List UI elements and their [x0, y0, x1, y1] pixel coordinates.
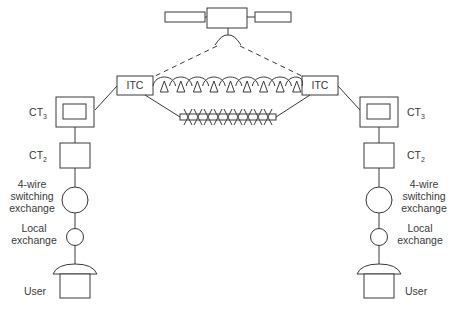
four-wire-left-label-2: switching — [10, 190, 53, 202]
ct3-left-label: CT3 — [29, 106, 47, 120]
local-left-label-1: Local — [21, 222, 46, 234]
user-right-house — [364, 274, 394, 298]
satellite-link-left — [153, 46, 217, 77]
user-right-roof — [357, 264, 401, 274]
link-itc-ct3-right — [338, 86, 360, 110]
ct2-right-box — [364, 143, 394, 168]
local-right-label-2: exchange — [397, 234, 443, 246]
relay-tower-icon — [193, 81, 201, 92]
link-itc-ct3-left — [95, 86, 117, 110]
relay-hop — [285, 77, 302, 86]
itc-left-label: ITC — [127, 79, 144, 91]
satellite-link-right — [240, 46, 304, 77]
relay-tower-icon — [227, 81, 235, 92]
user-left-roof — [53, 264, 97, 274]
four-wire-exchange-right — [366, 187, 392, 213]
ct2-right-label: CT2 — [407, 149, 425, 163]
ct3-left-inner — [63, 104, 86, 119]
itc-right: ITC — [302, 76, 338, 95]
four-wire-right-label-1: 4-wire — [410, 178, 439, 190]
relay-tower-icon — [276, 81, 284, 92]
four-wire-right-label-3: exchange — [401, 202, 447, 214]
radio-relay-chain — [153, 77, 303, 92]
relay-tower-icon — [160, 81, 168, 92]
right-hierarchy: CT3 CT2 4-wire switching exchange Local … — [357, 97, 447, 298]
left-hierarchy: CT3 CT2 4-wire switching exchange Local … — [9, 97, 97, 298]
satellite — [165, 8, 291, 45]
satellite-left-panel — [165, 12, 205, 22]
four-wire-left-label-3: exchange — [9, 202, 55, 214]
cable-right-feed — [276, 95, 310, 117]
four-wire-right-label-2: switching — [402, 190, 445, 202]
itc-left: ITC — [117, 76, 153, 95]
local-right-label-1: Local — [407, 222, 432, 234]
cable-left-feed — [145, 95, 180, 117]
ct2-left-box — [60, 143, 90, 168]
user-left-house — [60, 274, 90, 298]
four-wire-exchange-left — [62, 187, 88, 213]
local-exchange-right — [371, 229, 388, 246]
user-right-label: User — [405, 285, 428, 297]
relay-tower-icon — [210, 81, 218, 92]
four-wire-left-label-1: 4-wire — [18, 178, 47, 190]
relay-tower-icon — [243, 81, 251, 92]
relay-tower-icon — [293, 81, 301, 92]
satellite-body — [207, 8, 247, 28]
satellite-antenna-dish — [215, 35, 241, 45]
relay-tower-icon — [177, 81, 185, 92]
user-left-label: User — [24, 285, 47, 297]
local-left-label-2: exchange — [11, 234, 57, 246]
itc-right-label: ITC — [312, 79, 329, 91]
submarine-cable — [180, 109, 276, 125]
satellite-right-panel — [255, 12, 291, 22]
ct3-right-label: CT3 — [407, 106, 425, 120]
relay-tower-icon — [260, 81, 268, 92]
telephone-network-diagram: ITC ITC CT3 CT2 4-wire switching exchang… — [0, 0, 456, 312]
local-exchange-left — [67, 229, 84, 246]
ct3-right-inner — [367, 104, 390, 119]
ct2-left-label: CT2 — [29, 149, 47, 163]
